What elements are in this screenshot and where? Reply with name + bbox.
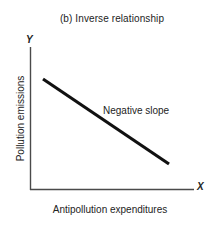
negative-slope-line xyxy=(43,79,169,164)
y-axis-letter: Y xyxy=(26,34,33,45)
negative-slope-annotation: Negative slope xyxy=(103,105,169,116)
y-axis-title: Pollution emissions xyxy=(15,53,26,185)
inverse-relationship-figure: (b) Inverse relationship Y X Pollution e… xyxy=(0,0,224,226)
x-axis-title: Antipollution expenditures xyxy=(20,204,200,215)
x-axis-letter: X xyxy=(197,181,204,192)
